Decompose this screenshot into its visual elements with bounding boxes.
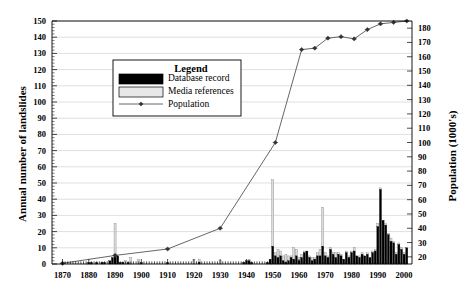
bar-media-references	[274, 253, 276, 256]
bar-media-references	[390, 238, 392, 241]
bar-media-references	[316, 253, 318, 256]
bar-media-references	[301, 254, 303, 257]
bar-media-references	[400, 248, 402, 250]
bar-database-record	[385, 225, 387, 264]
legend-swatch-database-record	[119, 74, 163, 84]
bar-media-references	[353, 248, 355, 251]
bar-media-references	[372, 251, 374, 253]
bar-media-references	[287, 256, 289, 261]
bar-database-record	[377, 227, 379, 264]
bar-media-references	[293, 248, 295, 259]
plot-area: LegendDatabase recordMedia referencesPop…	[0, 0, 460, 300]
bar-database-record	[390, 241, 392, 264]
bar-media-references	[114, 224, 116, 255]
bar-database-record	[379, 189, 381, 264]
bar-media-references	[285, 254, 287, 262]
bar-database-record	[393, 243, 395, 264]
bar-database-record	[398, 245, 400, 264]
bar-media-references	[377, 224, 379, 227]
bar-media-references	[332, 253, 334, 255]
bar-media-references	[385, 224, 387, 226]
bar-media-references	[308, 256, 310, 258]
bar-media-references	[248, 259, 250, 261]
bar-media-references	[290, 256, 292, 258]
chart-figure: Annual number of landslides Population (…	[0, 0, 460, 300]
bar-media-references	[277, 249, 279, 257]
bar-media-references	[348, 256, 350, 258]
bar-database-record	[387, 235, 389, 264]
bar-media-references	[345, 251, 347, 253]
bar-media-references	[361, 253, 363, 255]
bar-media-references	[395, 253, 397, 255]
bar-media-references	[322, 207, 324, 246]
legend-label-database-record: Database record	[168, 73, 230, 83]
bar-media-references	[272, 180, 274, 246]
bar-database-record	[382, 220, 384, 264]
bar-media-references	[327, 256, 329, 258]
legend-swatch-media-references	[119, 87, 163, 97]
bar-media-references	[351, 251, 353, 253]
bar-media-references	[303, 251, 305, 253]
bar-media-references	[335, 253, 337, 258]
bar-media-references	[366, 253, 368, 255]
bar-media-references	[387, 233, 389, 235]
bar-media-references	[393, 241, 395, 243]
bar-media-references	[280, 251, 282, 256]
bar-database-record	[322, 246, 324, 264]
bar-media-references	[330, 248, 332, 250]
bar-media-references	[319, 249, 321, 255]
bar-media-references	[358, 256, 360, 258]
bar-media-references	[374, 249, 376, 251]
bar-media-references	[403, 253, 405, 255]
legend-label-population: Population	[168, 99, 209, 109]
legend-label-media-references: Media references	[168, 86, 234, 96]
bar-media-references	[295, 249, 297, 255]
bar-media-references	[379, 188, 381, 190]
bar-media-references	[314, 258, 316, 260]
bar-media-references	[282, 256, 284, 261]
bar-media-references	[398, 243, 400, 245]
bar-media-references	[311, 258, 313, 261]
bar-media-references	[324, 253, 326, 256]
bar-media-references	[340, 254, 342, 256]
bar-media-references	[337, 253, 339, 255]
